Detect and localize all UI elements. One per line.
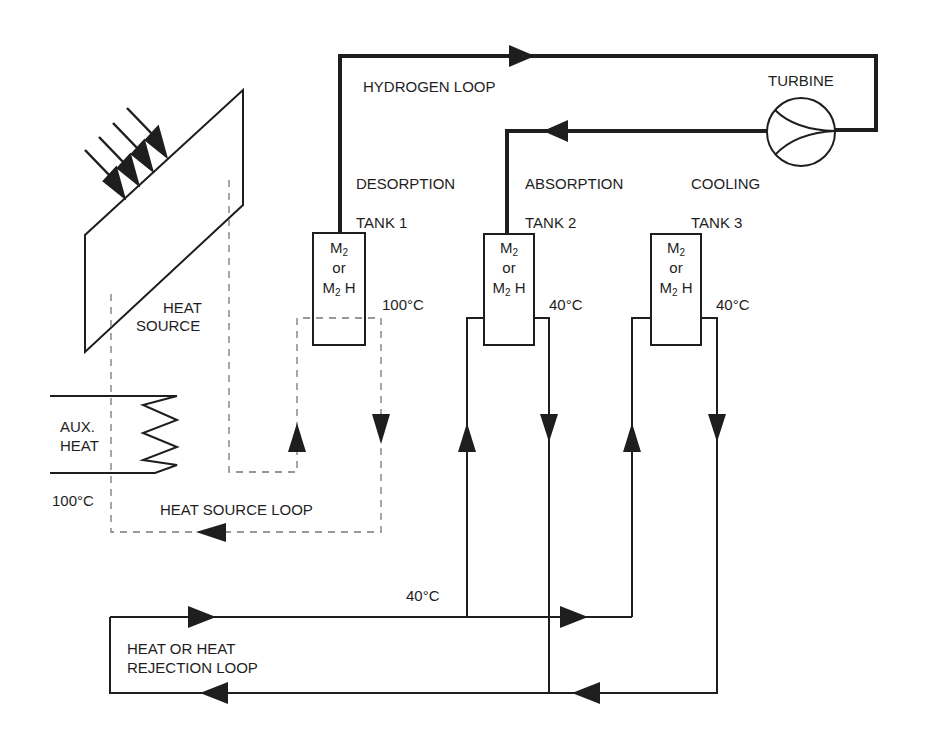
tank-1-contents: M2 or M2 H [313, 238, 365, 298]
diagram-canvas [0, 0, 925, 740]
tank-3-label: TANK 3 [691, 214, 742, 232]
heat-rejection-loop-label-line1: HEAT OR HEAT [127, 640, 235, 658]
stage-label-absorption: ABSORPTION [525, 175, 623, 193]
tank-3-temperature: 40°C [716, 296, 750, 314]
aux-heat-label-line1: AUX. [60, 418, 95, 436]
turbine-label: TURBINE [768, 72, 834, 90]
heat-rejection-loop-label-line2: REJECTION LOOP [127, 659, 258, 677]
tank-1-label: TANK 1 [356, 214, 407, 232]
hydrogen-loop-label: HYDROGEN LOOP [363, 78, 496, 96]
heat-source-label-line2: SOURCE [136, 317, 200, 335]
tank-2-label: TANK 2 [525, 214, 576, 232]
turbine-icon [767, 98, 835, 166]
tank-2-contents: M2 or M2 H [484, 238, 534, 298]
aux-heat-temperature: 100°C [52, 492, 94, 510]
stage-label-desorption: DESORPTION [356, 175, 455, 193]
heat-source-flow-arrows [196, 414, 390, 542]
sun-rays-icon [85, 108, 166, 197]
hydrogen-flow-arrows [509, 45, 568, 142]
heat-rejection-flow-arrows [188, 414, 726, 704]
heat-source-label-line1: HEAT [163, 299, 202, 317]
rejection-supply-temperature: 40°C [406, 587, 440, 605]
heat-source-loop-label: HEAT SOURCE LOOP [160, 501, 313, 519]
tank-2-temperature: 40°C [549, 296, 583, 314]
tank-1-temperature: 100°C [382, 296, 424, 314]
aux-heat-label-line2: HEAT [60, 437, 99, 455]
tank-3-contents: M2 or M2 H [651, 238, 701, 298]
stage-label-cooling: COOLING [691, 175, 760, 193]
